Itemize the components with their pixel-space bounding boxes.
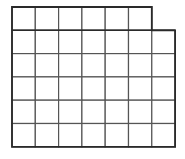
grid-cell bbox=[12, 54, 35, 77]
grid-cell bbox=[152, 30, 175, 53]
grid-cell bbox=[82, 54, 105, 77]
grid-cell bbox=[35, 124, 58, 147]
grid-cell bbox=[82, 7, 105, 30]
grid-cell bbox=[129, 77, 152, 100]
grid-cell bbox=[59, 54, 82, 77]
grid-cell bbox=[105, 30, 128, 53]
grid-cell bbox=[12, 77, 35, 100]
grid-cell bbox=[12, 124, 35, 147]
grid-cell bbox=[82, 124, 105, 147]
grid-cell bbox=[105, 7, 128, 30]
grid-cell bbox=[35, 54, 58, 77]
grid-cell bbox=[59, 100, 82, 123]
grid-cell bbox=[105, 54, 128, 77]
grid-cell bbox=[129, 54, 152, 77]
grid-cell bbox=[35, 77, 58, 100]
grid-cell bbox=[59, 124, 82, 147]
grid-cell bbox=[59, 7, 82, 30]
grid-cell bbox=[59, 77, 82, 100]
grid-cell bbox=[105, 77, 128, 100]
grid-cell bbox=[82, 100, 105, 123]
grid-cell bbox=[152, 100, 175, 123]
grid-cell bbox=[105, 100, 128, 123]
grid-cell bbox=[152, 124, 175, 147]
grid-cell bbox=[12, 100, 35, 123]
grid-cell bbox=[129, 7, 152, 30]
grid-cell bbox=[129, 30, 152, 53]
grid-cell bbox=[59, 30, 82, 53]
grid-cell bbox=[12, 7, 35, 30]
grid-cell bbox=[35, 7, 58, 30]
grid-cell bbox=[129, 124, 152, 147]
grid-cell bbox=[152, 54, 175, 77]
grid-cell bbox=[105, 124, 128, 147]
grid-cell bbox=[35, 30, 58, 53]
grid-cell bbox=[82, 77, 105, 100]
grid-cell bbox=[82, 30, 105, 53]
grid-cell bbox=[35, 100, 58, 123]
grid-cell bbox=[152, 77, 175, 100]
grid-cell bbox=[12, 30, 35, 53]
grid-diagram bbox=[0, 0, 185, 159]
grid-cell bbox=[129, 100, 152, 123]
